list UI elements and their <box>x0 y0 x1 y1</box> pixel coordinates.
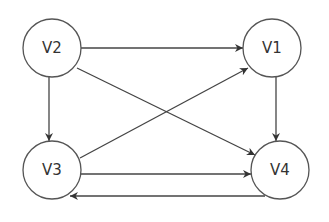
node-v2: V2 <box>23 19 81 77</box>
node-v1-label: V1 <box>262 39 282 57</box>
node-v4: V4 <box>251 141 309 199</box>
node-v2-label: V2 <box>42 39 62 57</box>
node-v3-label: V3 <box>42 161 62 179</box>
node-v3: V3 <box>23 141 81 199</box>
graph-diagram: V2 V1 V3 V4 <box>0 0 329 222</box>
node-v1: V1 <box>243 19 301 77</box>
node-v4-label: V4 <box>270 161 290 179</box>
